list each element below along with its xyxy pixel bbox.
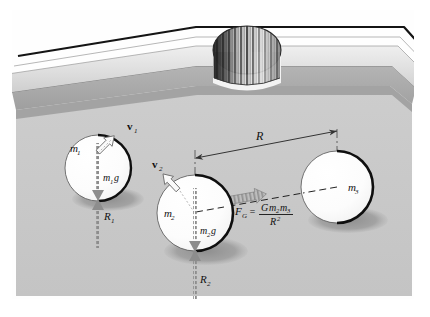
force-subscript: G	[242, 212, 247, 220]
ball-1-velocity-subscript: 1	[134, 127, 138, 135]
ball-2-normal-label: R	[199, 273, 207, 285]
margin-bottom	[0, 299, 430, 317]
formula-equals: =	[249, 206, 256, 217]
ball-1-normal-subscript: 1	[111, 217, 115, 225]
force-symbol: F	[234, 205, 242, 217]
formula-R: R	[269, 216, 276, 227]
margin-left	[0, 0, 12, 317]
ball-2-weight-g: g	[211, 225, 216, 236]
ball-2-velocity-subscript: 2	[159, 165, 163, 173]
ball-1-mass-subscript: 1	[77, 149, 81, 157]
ball-1-weight-subscript: 1	[110, 178, 113, 185]
physics-diagram: R F G = G m 2 m 3 R 2	[0, 0, 430, 317]
distance-label: R	[255, 129, 264, 143]
ball-2-velocity-label: v	[152, 158, 158, 170]
ball-1-normal-label: R	[103, 210, 111, 222]
ball-1-weight-g: g	[114, 172, 119, 183]
margin-top	[0, 0, 430, 10]
formula-bigG: G	[261, 202, 268, 213]
margin-right	[414, 0, 430, 317]
ball-1-velocity-label: v	[127, 120, 133, 132]
pocket-throat-shading	[214, 52, 280, 85]
ball-2-mass-subscript: 2	[171, 214, 175, 222]
figure-canvas: R F G = G m 2 m 3 R 2	[0, 0, 430, 317]
ball-2-normal-subscript: 2	[207, 280, 211, 288]
ball-3-mass-subscript: 3	[354, 188, 359, 196]
